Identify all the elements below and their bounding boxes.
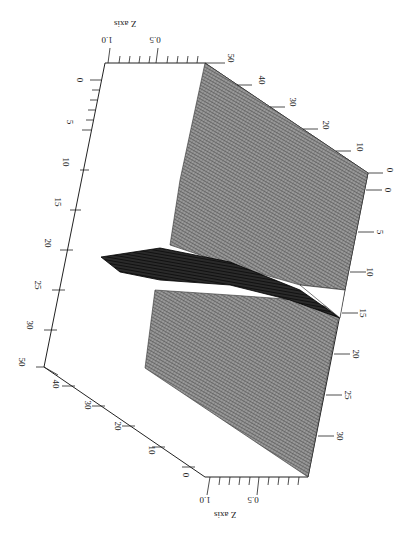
svg-text:20: 20 xyxy=(113,422,123,432)
svg-text:0: 0 xyxy=(383,188,393,193)
svg-text:30: 30 xyxy=(25,321,35,331)
svg-text:25: 25 xyxy=(33,281,43,291)
svg-text:10: 10 xyxy=(365,268,375,278)
svg-text:15: 15 xyxy=(358,309,368,319)
z-tick-top-1: 0.5 xyxy=(149,35,161,45)
svg-text:30: 30 xyxy=(83,401,93,411)
z-tick-bottom-1: 0.5 xyxy=(247,495,259,505)
svg-text:0: 0 xyxy=(181,473,191,478)
z-axis-bottom-title: Z axis xyxy=(213,510,236,520)
svg-text:15: 15 xyxy=(53,198,63,208)
svg-text:5: 5 xyxy=(375,230,385,235)
z-axis-top-title: Z axis xyxy=(113,19,136,29)
svg-text:25: 25 xyxy=(343,391,353,401)
lower-left-axis-labels: 40 30 20 10 0 xyxy=(51,380,191,478)
z-tick-top-0: 1.0 xyxy=(101,35,113,45)
left-axis-labels: 0 5 10 15 20 25 30 50 xyxy=(17,78,85,367)
svg-text:10: 10 xyxy=(147,446,157,456)
svg-text:10: 10 xyxy=(355,143,365,153)
svg-text:40: 40 xyxy=(51,380,61,390)
svg-text:0: 0 xyxy=(75,78,85,83)
svg-text:20: 20 xyxy=(43,239,53,249)
z-axis-bottom-ticks xyxy=(207,477,299,495)
surface-lower-panel xyxy=(145,290,340,477)
surface-plot: Z axis 1.0 0.5 0 5 10 15 20 25 30 50 xyxy=(0,0,417,544)
svg-text:50: 50 xyxy=(226,54,236,64)
z-axis-top-ticks xyxy=(108,48,198,63)
svg-text:20: 20 xyxy=(351,350,361,360)
svg-text:10: 10 xyxy=(61,158,71,168)
svg-text:30: 30 xyxy=(288,98,298,108)
svg-text:20: 20 xyxy=(321,121,331,131)
z-tick-bottom-0: 1.0 xyxy=(199,495,211,505)
svg-text:0: 0 xyxy=(385,168,395,173)
svg-text:30: 30 xyxy=(335,432,345,442)
svg-text:5: 5 xyxy=(65,120,75,125)
svg-text:40: 40 xyxy=(257,76,267,86)
svg-text:50: 50 xyxy=(17,358,27,368)
